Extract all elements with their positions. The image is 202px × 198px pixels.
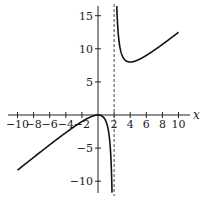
y-tick-label: 15 [79, 10, 93, 23]
x-tick-label: −6 [42, 118, 58, 131]
curve-right-branch [117, 6, 179, 62]
y-tick-label: 10 [79, 43, 93, 56]
x-tick-label: 4 [127, 118, 134, 131]
x-axis-label: x [193, 108, 200, 122]
x-tick-label: 8 [159, 118, 166, 131]
y-tick-label: −10 [70, 175, 93, 188]
axes [8, 6, 190, 193]
x-tick-label: −8 [25, 118, 41, 131]
x-tick-label: 6 [143, 118, 150, 131]
y-tick-label: −5 [77, 142, 93, 155]
y-tick-label: 5 [86, 76, 93, 89]
x-tick-label: 10 [172, 118, 186, 131]
function-plot: −10−8−6−4−224681015105−5−10 x [0, 0, 202, 198]
ticks: −10−8−6−4−224681015105−5−10 [6, 10, 186, 189]
